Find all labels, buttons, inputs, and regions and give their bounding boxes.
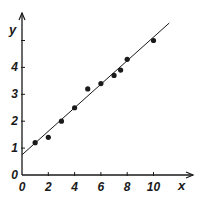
x-tick-label: 2: [44, 180, 52, 194]
y-axis-label: y: [8, 22, 17, 37]
axis-labels: y x: [8, 22, 186, 193]
x-tick-label: 6: [98, 180, 105, 194]
best-fit-line: [22, 23, 169, 155]
y-tick-label: 0: [11, 168, 18, 182]
axes: [19, 13, 193, 178]
data-point: [59, 119, 64, 124]
regression-line: [22, 23, 169, 155]
ticks: 024681001234: [10, 41, 160, 195]
data-point: [85, 86, 90, 91]
x-axis-label: x: [177, 178, 186, 193]
data-point: [98, 81, 103, 86]
y-tick-label: 3: [11, 87, 18, 101]
data-point: [125, 57, 130, 62]
data-point: [118, 67, 123, 72]
data-point: [33, 140, 38, 145]
y-tick-label: 1: [11, 141, 18, 155]
data-point: [46, 135, 51, 140]
y-tick-label: 2: [10, 114, 18, 128]
data-point: [72, 105, 77, 110]
scatter-plot: 024681001234 y x: [0, 0, 203, 203]
data-point: [151, 38, 156, 43]
x-tick-label: 8: [124, 180, 131, 194]
y-tick-label: 4: [10, 60, 18, 74]
x-tick-label: 10: [147, 180, 161, 194]
x-tick-label: 0: [19, 180, 26, 194]
data-point: [111, 73, 116, 78]
x-tick-label: 4: [70, 180, 78, 194]
